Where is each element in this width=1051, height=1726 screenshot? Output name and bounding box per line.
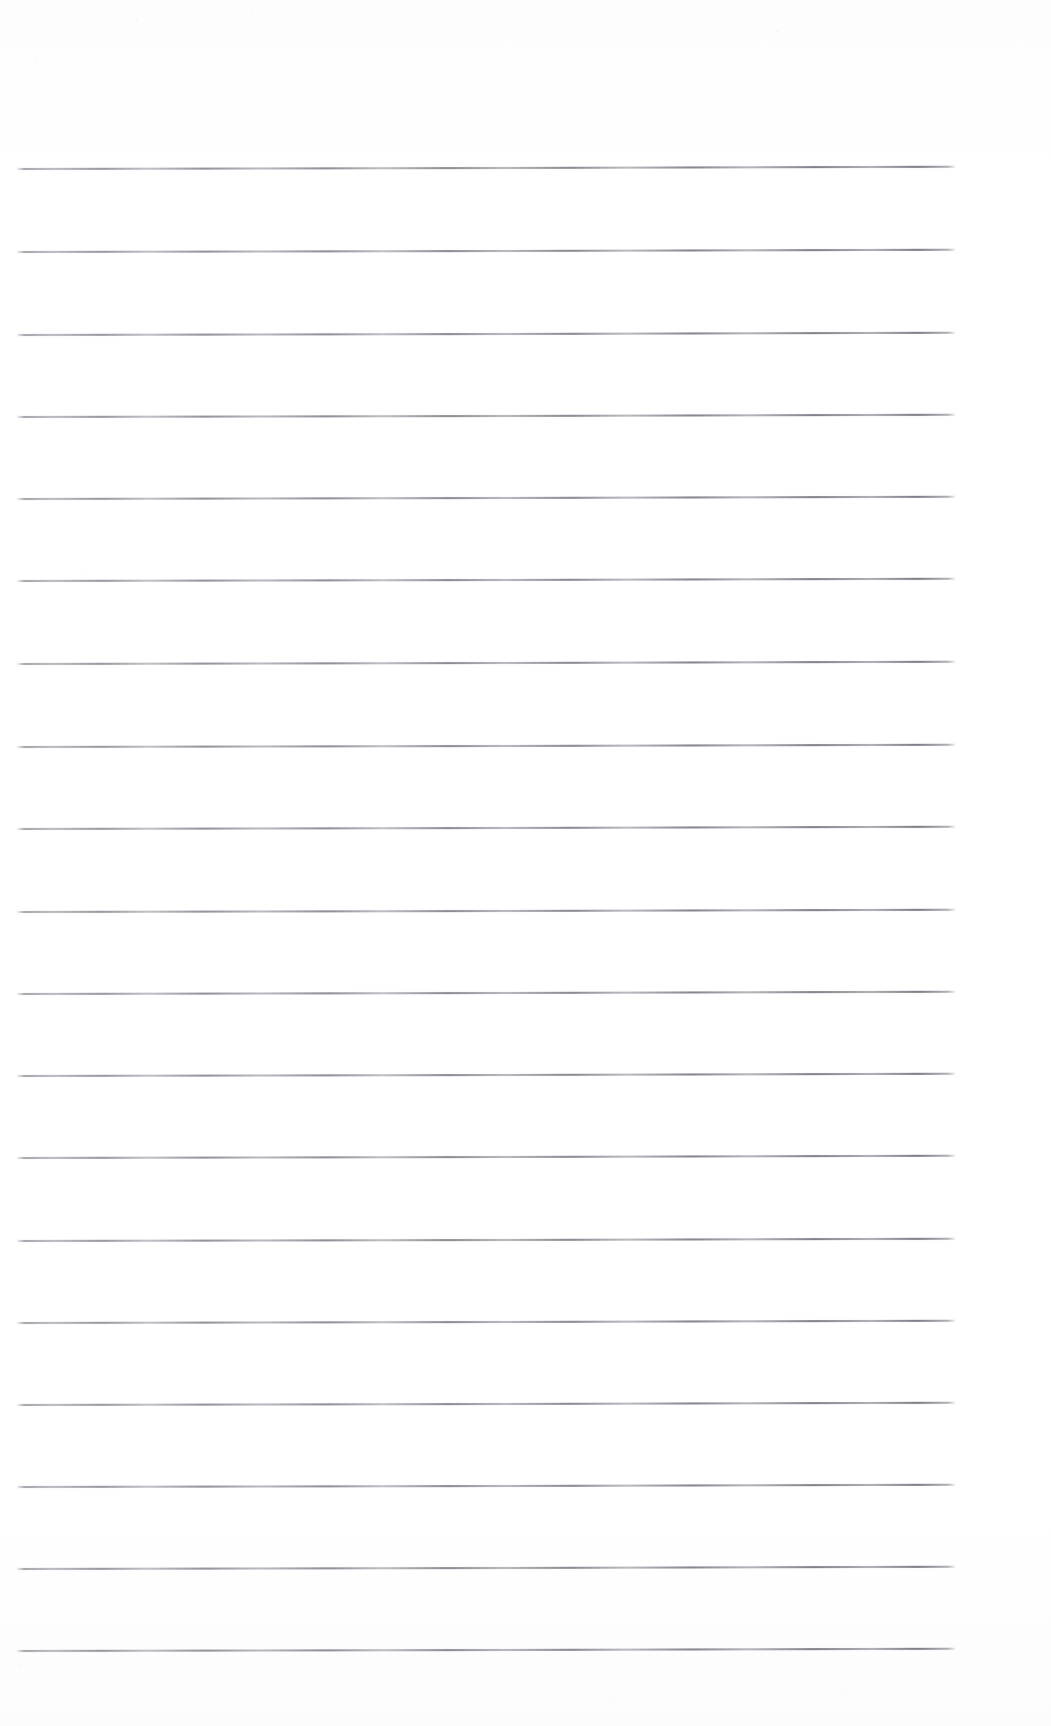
ruled-line — [17, 496, 955, 500]
ruled-line — [17, 1648, 955, 1652]
ruled-line — [17, 166, 955, 170]
ruled-line — [17, 661, 955, 665]
ruled-line — [17, 1484, 955, 1488]
ruled-line — [17, 414, 955, 418]
ruled-line — [17, 1155, 955, 1159]
ruled-line — [17, 744, 955, 748]
paper-surface — [0, 0, 1051, 1726]
ruled-line — [17, 826, 955, 830]
ruled-line — [17, 332, 955, 336]
scan-speckle-overlay — [0, 0, 1051, 1726]
ruled-line — [17, 1320, 955, 1324]
ruled-line — [17, 1402, 955, 1406]
ruled-line — [17, 1073, 955, 1077]
scanned-page — [0, 0, 1051, 1726]
ruled-line — [17, 249, 955, 253]
ruled-line — [17, 909, 955, 913]
ruled-line — [17, 1566, 955, 1570]
ruled-line — [17, 578, 955, 582]
ruled-line — [17, 1238, 955, 1242]
ruled-line — [17, 991, 955, 995]
